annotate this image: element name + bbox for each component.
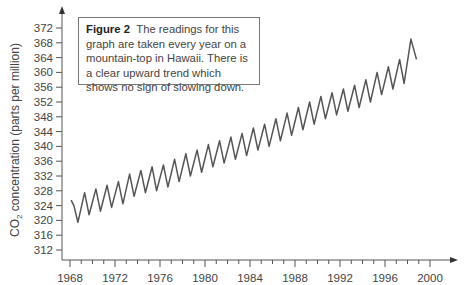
y-tick-label: 312 bbox=[34, 244, 53, 256]
ylabel-subscript: 2 bbox=[15, 214, 24, 218]
x-tick-label: 1976 bbox=[147, 272, 173, 284]
y-tick-label: 316 bbox=[34, 229, 53, 241]
y-tick-label: 348 bbox=[34, 111, 53, 123]
x-tick-label: 1984 bbox=[237, 272, 263, 284]
x-tick-label: 1972 bbox=[102, 272, 128, 284]
figure-caption: Figure 2 The readings for this graph are… bbox=[78, 17, 260, 85]
y-tick-label: 368 bbox=[34, 37, 53, 49]
y-tick-label: 364 bbox=[34, 52, 54, 64]
x-axis-arrow-icon bbox=[450, 257, 458, 263]
y-axis-arrow-icon bbox=[59, 6, 65, 14]
x-tick-label: 1992 bbox=[327, 272, 353, 284]
y-tick-label: 360 bbox=[34, 66, 53, 78]
x-tick-label: 1996 bbox=[372, 272, 398, 284]
x-tick-label: 1988 bbox=[282, 272, 308, 284]
y-tick-label: 320 bbox=[34, 214, 53, 226]
caption-label: Figure 2 bbox=[86, 23, 130, 35]
ylabel-suffix: concentration (parts per million) bbox=[8, 43, 22, 214]
y-tick-label: 372 bbox=[34, 22, 53, 34]
y-axis: 3123163203243283323363403443483523563603… bbox=[34, 6, 65, 260]
x-axis: 196819721976198019841988199219962000 bbox=[57, 257, 458, 284]
y-tick-label: 336 bbox=[34, 155, 53, 167]
x-tick-label: 2000 bbox=[417, 272, 443, 284]
y-tick-label: 332 bbox=[34, 170, 53, 182]
y-tick-label: 324 bbox=[34, 200, 54, 212]
y-tick-label: 356 bbox=[34, 81, 53, 93]
x-tick-label: 1980 bbox=[192, 272, 218, 284]
x-tick-label: 1968 bbox=[57, 272, 83, 284]
ylabel-prefix: CO bbox=[8, 219, 22, 237]
y-tick-label: 344 bbox=[34, 126, 54, 138]
y-tick-label: 340 bbox=[34, 140, 53, 152]
y-tick-label: 352 bbox=[34, 96, 53, 108]
y-tick-label: 328 bbox=[34, 185, 53, 197]
